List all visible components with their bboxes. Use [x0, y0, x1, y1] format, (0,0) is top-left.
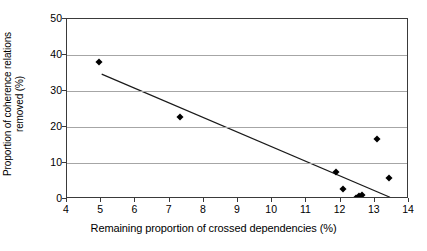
x-tick-mark-8 [203, 198, 204, 202]
x-tick-mark-6 [134, 198, 135, 202]
x-tick-label-5: 5 [85, 203, 115, 215]
y-tick-label-40: 40 [16, 49, 62, 59]
x-tick-label-14: 14 [393, 203, 423, 215]
x-tick-label-10: 10 [256, 203, 286, 215]
y-tick-label-10: 10 [16, 157, 62, 167]
y-axis-tick-labels: 01020304050 [12, 18, 62, 198]
x-tick-label-6: 6 [119, 203, 149, 215]
x-tick-mark-13 [374, 198, 375, 202]
y-tick-label-20: 20 [16, 121, 62, 131]
x-tick-label-4: 4 [51, 203, 81, 215]
y-tick-label-50: 50 [16, 13, 62, 23]
x-tick-mark-7 [169, 198, 170, 202]
x-tick-mark-5 [100, 198, 101, 202]
gridline-y-40 [67, 55, 407, 56]
gridline-y-30 [67, 91, 407, 92]
x-tick-mark-9 [237, 198, 238, 202]
gridline-y-10 [67, 163, 407, 164]
x-tick-label-7: 7 [154, 203, 184, 215]
y-tick-label-0: 0 [16, 193, 62, 203]
y-tick-mark-30 [62, 90, 66, 91]
gridline-y-20 [67, 127, 407, 128]
x-tick-mark-10 [271, 198, 272, 202]
y-tick-mark-20 [62, 126, 66, 127]
scatter-plot-figure: Proportion of coherence relations remove… [0, 0, 427, 251]
y-tick-mark-50 [62, 18, 66, 19]
x-tick-mark-12 [340, 198, 341, 202]
x-tick-label-13: 13 [359, 203, 389, 215]
x-tick-mark-14 [408, 198, 409, 202]
x-tick-label-11: 11 [290, 203, 320, 215]
x-tick-mark-4 [66, 198, 67, 202]
x-axis-title: Remaining proportion of crossed dependen… [0, 222, 427, 234]
x-tick-label-8: 8 [188, 203, 218, 215]
y-tick-label-30: 30 [16, 85, 62, 95]
x-tick-label-9: 9 [222, 203, 252, 215]
y-tick-mark-10 [62, 162, 66, 163]
plot-area [66, 18, 408, 198]
trendline [67, 19, 407, 197]
y-tick-mark-40 [62, 54, 66, 55]
x-tick-mark-11 [305, 198, 306, 202]
plot-inner [67, 19, 407, 197]
x-axis-tick-labels: 4567891011121314 [66, 201, 408, 217]
x-tick-label-12: 12 [325, 203, 355, 215]
